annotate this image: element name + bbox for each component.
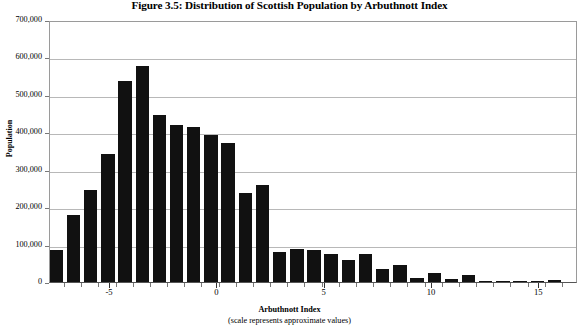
bar [221,143,234,282]
bar [290,249,303,282]
x-axis-minor-tick [98,283,99,287]
x-axis-tick-label: 5 [304,288,344,297]
y-axis-tick [45,58,49,59]
x-axis-subtitle: (scale represents approximate values) [0,316,579,325]
x-axis-minor-tick [201,283,202,287]
bar [376,269,389,282]
x-axis-minor-tick [528,283,529,287]
x-axis-tick-label: 10 [411,288,451,297]
x-axis-minor-tick [356,283,357,287]
x-axis-minor-tick [287,283,288,287]
x-axis-minor-tick [184,283,185,287]
x-axis-minor-tick [253,283,254,287]
bar [239,193,252,282]
bar [445,279,458,282]
x-axis-minor-tick [150,283,151,287]
y-axis-tick-label: 100,000 [15,241,42,249]
bar [170,125,183,282]
y-axis-tick-label: 500,000 [15,91,42,99]
y-axis-tick [45,21,49,22]
x-axis-minor-tick [476,283,477,287]
x-axis-minor-tick [459,283,460,287]
bar [256,185,269,282]
bar [359,254,372,282]
y-axis-tick [45,283,49,284]
x-axis-minor-tick [81,283,82,287]
bar [153,115,166,282]
x-axis-minor-tick [219,283,220,287]
bar [324,254,337,282]
y-axis-tick-label: 700,000 [15,16,42,24]
bar [548,280,561,282]
x-axis-minor-tick [373,283,374,287]
y-axis-tick [45,246,49,247]
bar [393,265,406,282]
x-axis-minor-tick [442,283,443,287]
bar [84,190,97,282]
x-axis-minor-tick [493,283,494,287]
bar [307,250,320,282]
y-axis-tick-label: 600,000 [15,53,42,61]
x-axis-minor-tick [270,283,271,287]
x-axis-minor-tick [510,283,511,287]
bar [462,275,475,282]
y-axis-tick [45,171,49,172]
chart-title: Figure 3.5: Distribution of Scottish Pop… [0,0,579,11]
bar [410,278,423,282]
x-axis-minor-tick [425,283,426,287]
x-axis-minor-tick [304,283,305,287]
x-axis-title: Arbuthnott Index [0,305,579,314]
y-axis-tick [45,208,49,209]
x-axis-minor-tick [167,283,168,287]
y-axis-tick [45,96,49,97]
bar [531,281,544,282]
y-axis-tick [45,133,49,134]
chart-figure: Figure 3.5: Distribution of Scottish Pop… [0,0,579,329]
x-axis-minor-tick [339,283,340,287]
x-axis-minor-tick [545,283,546,287]
bar [50,250,63,282]
bar [513,281,526,282]
bar [204,135,217,282]
y-axis-tick-labels: 700,000600,000500,000400,000300,000200,0… [0,0,46,329]
x-axis-minor-tick [407,283,408,287]
x-axis-tick-label: 0 [196,288,236,297]
plot-area [49,21,577,283]
y-axis-tick-label: 200,000 [15,203,42,211]
bar [187,127,200,282]
bar [136,66,149,282]
x-axis-tick-label: -5 [89,288,129,297]
bar [118,81,131,282]
bar [428,273,441,282]
bar [101,154,114,282]
y-axis-tick-label: 300,000 [15,166,42,174]
x-axis-minor-tick [64,283,65,287]
bar [496,281,509,282]
x-axis-minor-tick [390,283,391,287]
bar [342,260,355,282]
x-axis-minor-tick [116,283,117,287]
bar [67,215,80,282]
y-axis-tick-label: 400,000 [15,128,42,136]
x-axis-tick-label: 15 [518,288,558,297]
x-axis-tick-labels: -5051015 [0,288,579,302]
bar [273,252,286,282]
bar-series [50,22,576,282]
x-axis-minor-tick [133,283,134,287]
x-axis-minor-tick [236,283,237,287]
x-axis-minor-tick [562,283,563,287]
bar [479,281,492,282]
